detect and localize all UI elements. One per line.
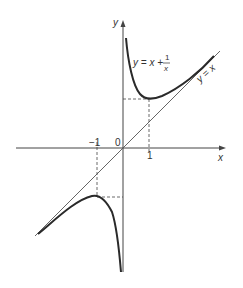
x-axis-arrow-icon xyxy=(219,146,226,151)
y-axis-label: y xyxy=(112,17,119,28)
graph: y x 0 −1 1 y = x + 1 x y = x xyxy=(0,0,243,288)
tick-label-neg1: −1 xyxy=(89,137,101,148)
curve-lower-branch xyxy=(38,196,121,272)
asymptote-line xyxy=(35,51,220,236)
curve-upper-branch xyxy=(126,38,214,99)
curve-label: y = x + xyxy=(132,57,163,68)
origin-label: 0 xyxy=(115,137,121,148)
asymptote-label: y = x xyxy=(193,61,218,85)
x-axis-label: x xyxy=(217,152,224,163)
curve-label-frac-den: x xyxy=(163,64,169,73)
tick-label-pos1: 1 xyxy=(147,150,153,161)
curve-label-frac-num: 1 xyxy=(165,53,170,62)
y-axis-arrow-icon xyxy=(121,20,126,27)
